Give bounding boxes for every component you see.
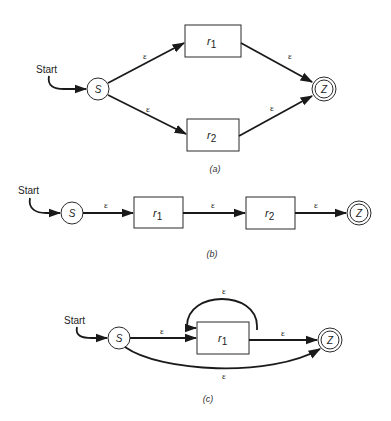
start-label: Start	[18, 185, 39, 196]
state-s: S	[87, 78, 109, 100]
edge-label-epsilon: ε	[314, 200, 318, 210]
edge-label-epsilon: ε	[281, 328, 285, 338]
edge-s-r1	[108, 43, 184, 83]
edge-label-epsilon: ε	[222, 371, 226, 381]
state-s: S	[108, 327, 130, 349]
start-label: Start	[64, 315, 85, 326]
svg-text:Z: Z	[355, 208, 363, 219]
edge-label-epsilon: ε	[288, 51, 292, 61]
panel-b-concatenation: Start S ε r1 ε r2 ε Z (b)	[18, 185, 371, 259]
edge-label-epsilon: ε	[270, 103, 274, 113]
state-s: S	[61, 202, 83, 224]
box-r1: r1	[185, 25, 241, 57]
panel-a-union: Start S ε ε r1 r2 ε ε Z (a)	[36, 25, 336, 174]
start-arrow	[49, 76, 86, 89]
svg-text:Z: Z	[320, 84, 328, 95]
edge-label-epsilon: ε	[146, 104, 150, 114]
svg-text:S: S	[69, 208, 76, 219]
box-r2: r2	[246, 197, 295, 229]
accepting-state-z: Z	[318, 328, 342, 352]
caption-b: (b)	[207, 249, 218, 259]
svg-text:Z: Z	[326, 335, 334, 346]
nfa-construction-figure: Start S ε ε r1 r2 ε ε Z (a)	[0, 0, 391, 421]
caption-c: (c)	[203, 394, 214, 404]
panel-c-kleene-star: Start S ε ε r1 ε ε Z (c)	[64, 286, 342, 404]
caption-a: (a)	[210, 164, 221, 174]
start-arrow	[30, 198, 60, 213]
edge-r1-z	[241, 43, 312, 82]
accepting-state-z: Z	[312, 77, 336, 101]
edge-s-r2	[108, 95, 186, 134]
start-label: Start	[36, 64, 57, 75]
box-r2: r2	[187, 119, 239, 151]
start-arrow	[77, 327, 107, 338]
edge-r2-z	[239, 96, 312, 136]
edge-label-epsilon: ε	[211, 200, 215, 210]
edge-label-epsilon: ε	[222, 286, 226, 296]
svg-text:S: S	[95, 84, 102, 95]
box-r1: r1	[134, 197, 183, 228]
edge-label-epsilon: ε	[160, 326, 164, 336]
svg-text:S: S	[116, 333, 123, 344]
box-r1: r1	[197, 322, 249, 354]
accepting-state-z: Z	[347, 201, 371, 225]
edge-label-epsilon: ε	[143, 51, 147, 61]
edge-label-epsilon: ε	[104, 200, 108, 210]
